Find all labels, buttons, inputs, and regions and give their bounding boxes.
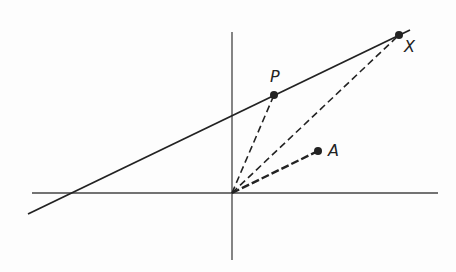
point-a-label: A	[327, 141, 339, 160]
point-x-dot	[395, 31, 403, 39]
line-through-p-and-x	[28, 30, 410, 214]
point-p-dot	[270, 91, 278, 99]
dashed-segment-origin-to-a	[232, 151, 318, 193]
dashed-segment-origin-to-x	[232, 35, 399, 193]
geometry-figure: P X A	[0, 0, 456, 272]
dashed-segment-origin-to-p	[232, 95, 274, 193]
point-x-label: X	[403, 37, 416, 56]
point-p-label: P	[270, 67, 280, 86]
diagram-canvas: P X A	[0, 0, 456, 272]
point-a-dot	[314, 147, 322, 155]
